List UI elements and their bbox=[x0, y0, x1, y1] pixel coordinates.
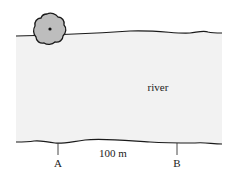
point-b-label: B bbox=[173, 157, 180, 169]
river-diagram: A B 100 m river bbox=[0, 0, 234, 174]
tree-icon bbox=[34, 13, 66, 44]
point-a-label: A bbox=[54, 157, 62, 169]
tree-center-point bbox=[48, 27, 51, 30]
river-water bbox=[16, 31, 222, 144]
river-label: river bbox=[148, 81, 169, 93]
distance-label: 100 m bbox=[99, 147, 127, 159]
